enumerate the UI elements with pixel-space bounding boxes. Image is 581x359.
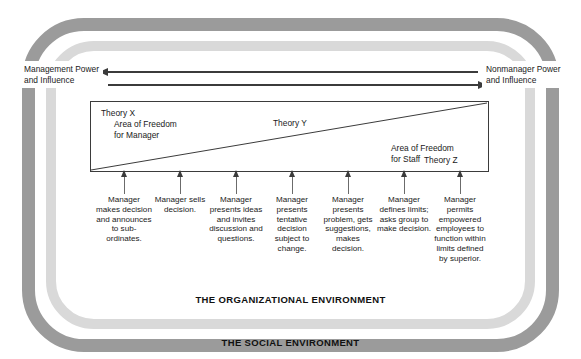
behavior-description-4: Manager presents tentative decision subj… — [264, 195, 320, 254]
behavior-description-3: Manager presents ideas and invites discu… — [208, 195, 264, 244]
behavior-arrow-2 — [180, 176, 181, 194]
arrow-head-up-icon — [345, 170, 351, 177]
area-of-freedom-manager-label: Area of Freedom for Manager — [114, 119, 177, 141]
leadership-continuum-diagram: THE ORGANIZATIONAL ENVIRONMENT THE SOCIA… — [0, 0, 581, 359]
nonmanager-power-label: Nonmanager Power and Influence — [482, 61, 564, 88]
behavior-arrow-6 — [404, 176, 405, 194]
organizational-environment-label: THE ORGANIZATIONAL ENVIRONMENT — [0, 294, 581, 305]
theory-y-label: Theory Y — [273, 118, 307, 129]
manager-to-nonmanager-arrow — [108, 84, 478, 86]
behavior-arrow-5 — [348, 176, 349, 194]
management-power-line1: Management Power — [24, 64, 99, 75]
theory-z-label: Theory Z — [424, 155, 458, 166]
nonmanager-power-line1: Nonmanager Power — [486, 64, 560, 75]
behavior-arrow-1 — [124, 176, 125, 194]
area-of-freedom-manager-line2: for Manager — [114, 130, 177, 141]
behavior-description-2: Manager sells decision. — [152, 195, 208, 215]
behavior-description-5: Manager presents problem, gets suggestio… — [320, 195, 376, 254]
behavior-description-7: Manager permits empowered employees to f… — [432, 195, 488, 264]
area-of-freedom-staff-line1: Area of Freedom — [391, 143, 454, 154]
arrow-head-up-icon — [457, 170, 463, 177]
arrow-head-up-icon — [289, 170, 295, 177]
social-environment-label: THE SOCIAL ENVIRONMENT — [0, 337, 581, 348]
continuum-box: Theory X Area of Freedom for Manager The… — [90, 101, 489, 172]
area-of-freedom-manager-line1: Area of Freedom — [114, 119, 177, 130]
behavior-arrow-3 — [236, 176, 237, 194]
arrow-head-up-icon — [121, 170, 127, 177]
arrow-head-up-icon — [233, 170, 239, 177]
behavior-arrow-7 — [460, 176, 461, 194]
behavior-description-1: Manager makes decision and announces to … — [96, 195, 152, 244]
behavior-description-6: Manager defines limits; asks group to ma… — [376, 195, 432, 234]
nonmanager-to-manager-arrow — [108, 71, 478, 73]
management-power-line2: and Influence — [24, 75, 99, 86]
behavior-arrow-4 — [292, 176, 293, 194]
arrow-head-up-icon — [401, 170, 407, 177]
nonmanager-power-line2: and Influence — [486, 75, 560, 86]
theory-x-label: Theory X — [101, 108, 135, 119]
arrow-head-up-icon — [177, 170, 183, 177]
management-power-label: Management Power and Influence — [20, 61, 103, 88]
